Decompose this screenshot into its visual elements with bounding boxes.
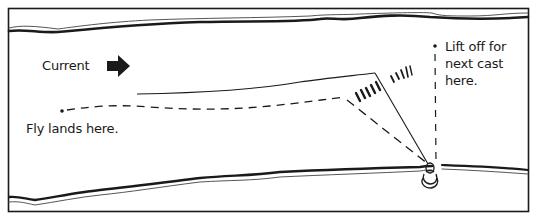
lift-path-dashed <box>435 54 436 164</box>
current-label: Current <box>42 58 89 74</box>
fishing-diagram <box>0 0 537 220</box>
far-bank-thick <box>9 15 528 32</box>
near-bank-thick <box>9 166 432 200</box>
fly-line-to-angler <box>375 73 428 164</box>
fly-lands-label: Fly lands here. <box>26 121 118 137</box>
fly-line-solid <box>137 73 375 94</box>
lift-off-line-1: Lift off for <box>445 38 535 55</box>
fly-landing-point <box>60 109 64 113</box>
lift-off-point <box>433 44 437 48</box>
lift-off-line-3: here. <box>445 72 535 89</box>
drift-path-dashed <box>67 97 345 110</box>
cast-path-dashed <box>347 100 428 164</box>
right-arrow-icon <box>107 55 130 77</box>
line-motion-hatch <box>356 66 412 101</box>
lift-off-line-2: next cast <box>445 55 535 72</box>
lift-off-label: Lift off for next cast here. <box>445 38 535 89</box>
